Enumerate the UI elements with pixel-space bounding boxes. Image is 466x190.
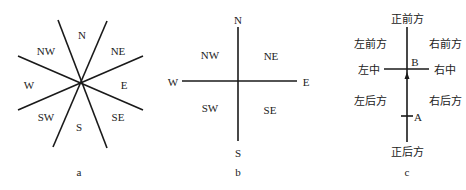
compass-b-label-ne: NE [264,51,279,62]
compass-a-label-n: N [78,30,86,41]
arrow-up-icon [405,72,410,79]
compass-b-label-w: W [168,77,178,88]
compass-a-label-nw: NW [37,46,55,57]
direction-c-label-mid-left: 左中 [358,65,380,76]
direction-c-label-back-right: 右后方 [429,96,462,107]
compass-b-label-se: SE [264,105,277,116]
direction-c-label-mid-right: 右中 [434,65,456,76]
compass-b-label-n: N [234,15,242,26]
compass-b-label-e: E [303,77,310,88]
compass-b-label-nw: NW [201,50,219,61]
direction-c-label-back-left: 左后方 [354,96,387,107]
direction-c-label-front-right: 右前方 [429,39,462,50]
compass-a-label-e: E [121,80,128,91]
direction-c-label-back: 正后方 [391,147,424,158]
caption-b: b [235,167,241,178]
compass-a-label-sw: SW [38,112,55,123]
compass-a-label-ne: NE [111,46,126,57]
point-b-label: B [411,57,418,68]
direction-c-label-front: 正前方 [391,14,424,25]
caption-c: c [405,167,410,178]
diagram-lines [0,0,466,190]
compass-b-label-sw: SW [202,103,219,114]
compass-a-label-w: W [24,80,34,91]
compass-a-label-s: S [76,122,82,133]
compass-b-label-s: S [235,148,241,159]
compass-a-label-se: SE [112,112,125,123]
point-a-label: A [414,112,422,123]
caption-a: a [77,167,82,178]
direction-c-label-front-left: 左前方 [354,39,387,50]
